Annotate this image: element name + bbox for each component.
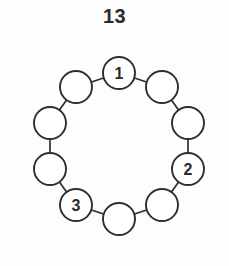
node-circle [34, 107, 66, 139]
node-circle [146, 189, 178, 221]
figure-title: 13 [0, 4, 229, 28]
node-circle [34, 153, 66, 185]
node-circle [146, 71, 178, 103]
ring-edge [59, 182, 67, 193]
ring-edge [59, 100, 67, 111]
node-label: 3 [72, 197, 81, 214]
ring-node [146, 71, 178, 103]
node-circle [60, 71, 92, 103]
ring-diagram-figure: 13 123 [0, 0, 229, 266]
ring-edge [91, 210, 105, 214]
node-circle [103, 203, 135, 235]
node-label: 1 [115, 65, 124, 82]
cycle-graph-canvas: 123 [0, 0, 229, 266]
nodes-layer: 123 [34, 57, 204, 235]
ring-node [146, 189, 178, 221]
ring-node [34, 153, 66, 185]
ring-node [34, 107, 66, 139]
ring-edge [171, 182, 179, 193]
ring-node [103, 203, 135, 235]
ring-node-2: 2 [172, 153, 204, 185]
ring-edge [171, 100, 179, 111]
node-circle [172, 107, 204, 139]
ring-edge [91, 78, 105, 82]
ring-edge [134, 210, 148, 214]
ring-node-1: 1 [103, 57, 135, 89]
ring-node-3: 3 [60, 189, 92, 221]
ring-node [172, 107, 204, 139]
node-label: 2 [184, 161, 193, 178]
ring-edge [134, 78, 148, 82]
ring-node [60, 71, 92, 103]
